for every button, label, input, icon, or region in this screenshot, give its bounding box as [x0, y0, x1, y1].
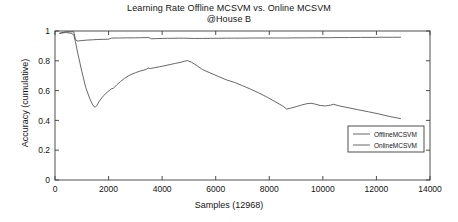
- x-tick-label: 10000: [311, 184, 335, 194]
- chart-figure: Learning Rate Offline MCSVM vs. Online M…: [0, 0, 458, 222]
- x-tick-label: 4000: [153, 184, 172, 194]
- x-axis-label: Samples (12968): [0, 200, 458, 210]
- y-tick-label: 0.6: [38, 86, 50, 96]
- x-tick-label: 12000: [365, 184, 389, 194]
- legend-label-onlinemcsvm: OnlineMCSVM: [374, 142, 417, 149]
- x-tick-label: 14000: [418, 184, 442, 194]
- x-tick-label: 8000: [260, 184, 279, 194]
- x-tick-label: 0: [53, 184, 58, 194]
- y-tick-label: 0.8: [38, 56, 50, 66]
- plot-area: 0200040006000800010000120001400000.20.40…: [0, 0, 458, 222]
- y-tick-label: 0.2: [38, 145, 50, 155]
- x-tick-label: 2000: [99, 184, 118, 194]
- legend-label-offlinemcsvm: OfflineMCSVM: [374, 131, 417, 138]
- y-tick-label: 0.4: [38, 116, 50, 126]
- y-tick-label: 0: [45, 175, 50, 185]
- x-tick-label: 6000: [206, 184, 225, 194]
- y-axis-label: Accuracy (cumulative): [20, 28, 30, 178]
- plot-box: [55, 31, 430, 180]
- y-tick-label: 1: [45, 26, 50, 36]
